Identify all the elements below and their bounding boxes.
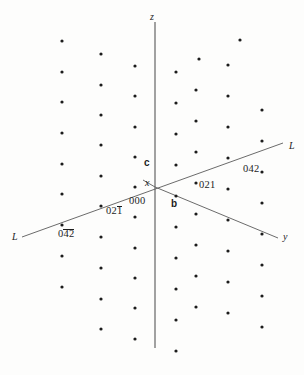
index-021: 021: [199, 180, 215, 191]
c-vector-label: c: [144, 158, 150, 168]
lattice-dot: [174, 349, 177, 352]
lattice-dot: [99, 143, 102, 146]
lattice-dot: [174, 70, 177, 73]
lattice-dot: [133, 246, 136, 249]
lattice-dot: [174, 318, 177, 321]
lattice-dot: [99, 235, 102, 238]
lattice-dot: [226, 187, 229, 190]
lattice-dot: [260, 232, 263, 235]
lattice-dot: [174, 101, 177, 104]
lattice-dot: [174, 287, 177, 290]
index-digit: 1: [117, 206, 122, 217]
x-axis-label: x: [145, 178, 149, 188]
index-021-bar: 021: [106, 206, 122, 217]
lattice-dot: [260, 108, 263, 111]
b-vector-label: b: [171, 199, 177, 209]
lattice-dot: [99, 52, 102, 55]
lattice-dot: [194, 181, 197, 184]
index-digit: 2: [69, 229, 74, 240]
lattice-dot: [260, 325, 263, 328]
lattice-dot: [60, 131, 63, 134]
lattice-dot: [226, 311, 229, 314]
z-axis-label: z: [150, 12, 154, 22]
index-digit: 1: [210, 179, 215, 190]
lattice-dot: [133, 125, 136, 128]
lattice-dot: [194, 212, 197, 215]
lattice-dot: [260, 139, 263, 142]
lattice-dot: [99, 327, 102, 330]
index-digit: 0: [140, 195, 145, 206]
index-000: 000: [129, 196, 145, 207]
lattice-dot: [133, 215, 136, 218]
lattice-dot: [194, 274, 197, 277]
lattice-dot: [60, 162, 63, 165]
index-042: 042: [243, 164, 259, 175]
lattice-dot: [194, 88, 197, 91]
lattice-dot: [60, 192, 63, 195]
lattice-dot: [60, 39, 63, 42]
lattice-dot: [194, 243, 197, 246]
lattice-dot: [260, 263, 263, 266]
y-axis: [155, 187, 278, 238]
row-line-L: [22, 143, 283, 237]
lattice-dot: [194, 305, 197, 308]
index-digit: 2: [254, 163, 259, 174]
lattice-canvas: [0, 0, 304, 375]
lattice-dot: [133, 155, 136, 158]
reciprocal-lattice-figure: zyxLLcb000021042021042: [0, 0, 304, 375]
lattice-dot: [260, 170, 263, 173]
lattice-dot: [260, 294, 263, 297]
lattice-dot: [99, 204, 102, 207]
lattice-dots-group: [60, 38, 263, 352]
lattice-dot: [60, 223, 63, 226]
lattice-dot: [133, 94, 136, 97]
index-042-bar: 042: [58, 229, 74, 240]
lattice-dot: [226, 94, 229, 97]
lattice-dot: [226, 218, 229, 221]
lattice-dot: [174, 163, 177, 166]
lattice-dot: [99, 83, 102, 86]
lattice-dot: [60, 285, 63, 288]
lattice-dot: [226, 156, 229, 159]
lattice-dot: [99, 297, 102, 300]
lattice-dot: [226, 63, 229, 66]
lattice-dot: [226, 249, 229, 252]
lattice-dot: [133, 185, 136, 188]
lattice-dot: [133, 337, 136, 340]
lattice-dot: [174, 225, 177, 228]
lattice-dot: [226, 125, 229, 128]
lattice-dot: [99, 174, 102, 177]
lattice-dot: [238, 38, 241, 41]
row-lines-group: [22, 143, 283, 237]
lattice-dot: [197, 57, 200, 60]
row-label-L-right: L: [289, 141, 295, 151]
lattice-dot: [60, 100, 63, 103]
lattice-dot: [99, 113, 102, 116]
lattice-dot: [99, 266, 102, 269]
lattice-dot: [226, 280, 229, 283]
lattice-dot: [174, 132, 177, 135]
y-axis-label: y: [283, 232, 287, 242]
lattice-dot: [133, 276, 136, 279]
lattice-dot: [194, 150, 197, 153]
lattice-dot: [133, 64, 136, 67]
lattice-dot: [60, 70, 63, 73]
lattice-dot: [260, 201, 263, 204]
lattice-dot: [133, 306, 136, 309]
lattice-dot: [174, 256, 177, 259]
lattice-dot: [60, 254, 63, 257]
lattice-dot: [194, 119, 197, 122]
row-label-L-left: L: [12, 232, 18, 242]
